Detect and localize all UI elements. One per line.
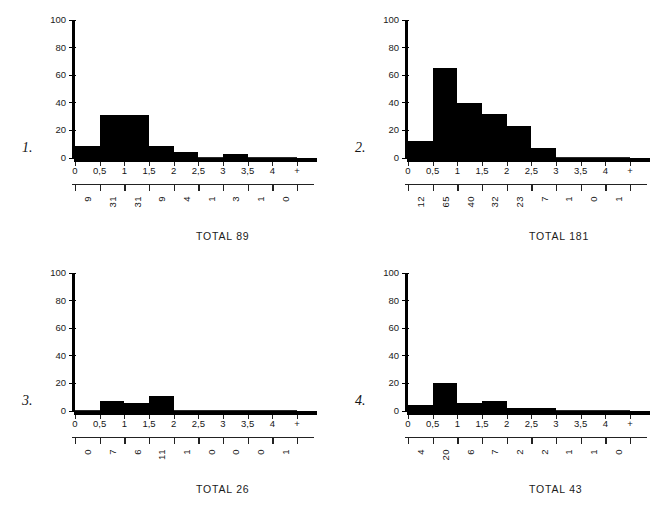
- plot-area-1: 020406080100: [72, 20, 317, 158]
- x-tick-label-1-4: 2: [171, 165, 176, 176]
- x-tick-label-4-5: 2,5: [525, 418, 538, 429]
- bin-count-2-8: 0: [588, 196, 599, 202]
- y-tick-label-2-80: 80: [373, 42, 399, 53]
- x-tick-label-1-2: 1: [122, 165, 127, 176]
- y-tick-label-4-40: 40: [373, 350, 399, 361]
- bin-count-tick-4-1: [433, 437, 434, 444]
- bars-group-1: [75, 20, 297, 158]
- bin-count-4-1: 4: [415, 449, 426, 455]
- bin-count-2-1: 12: [415, 196, 426, 208]
- bin-count-axis-3: 0761110001: [72, 437, 320, 483]
- bin-count-2-7: 1: [563, 196, 574, 202]
- x-tick-label-2-6: 3: [553, 165, 558, 176]
- plot-area-3: 020406080100: [72, 273, 317, 411]
- x-tick-label-4-6: 3: [553, 418, 558, 429]
- y-tick-label-3-0: 0: [40, 405, 66, 416]
- bin-count-tick-3-7: [248, 437, 249, 444]
- x-axis-labels-4: 00,511,522,533,54+: [405, 415, 653, 431]
- bin-count-tick-1-4: [174, 184, 175, 191]
- bin-count-1-5: 4: [181, 196, 192, 202]
- bin-count-1-7: 3: [230, 196, 241, 202]
- y-tick-label-1-100: 100: [40, 14, 66, 25]
- histogram-panel-4: 4.02040608010000,511,522,533,54+42067221…: [333, 253, 666, 505]
- x-tick-label-3-0: 0: [72, 418, 77, 429]
- y-tick-label-4-20: 20: [373, 377, 399, 388]
- bin-count-axis-2: 12654032237101: [405, 184, 653, 230]
- bin-count-3-7: 0: [230, 449, 241, 455]
- bin-count-4-4: 7: [489, 449, 500, 455]
- y-tick-label-2-20: 20: [373, 124, 399, 135]
- y-tick-label-3-80: 80: [40, 295, 66, 306]
- bin-count-tick-3-2: [124, 437, 125, 444]
- bar-1-1: [75, 146, 100, 158]
- bar-3-4: [149, 396, 174, 411]
- x-tick-label-1-6: 3: [220, 165, 225, 176]
- bin-count-tick-2-5: [531, 184, 532, 191]
- x-tick-label-3-3: 1,5: [142, 418, 155, 429]
- bin-count-3-6: 0: [206, 449, 217, 455]
- panel-index-label-1: 1.: [22, 140, 33, 156]
- y-tick-label-1-0: 0: [40, 152, 66, 163]
- x-axis-baseline-1: [74, 158, 317, 162]
- panel-index-label-3: 3.: [22, 393, 33, 409]
- bin-count-rule-1: [72, 184, 314, 185]
- x-tick-label-4-8: 4: [603, 418, 608, 429]
- bin-count-tick-2-4: [507, 184, 508, 191]
- x-tick-label-3-1: 0,5: [93, 418, 106, 429]
- bar-1-4: [149, 146, 174, 158]
- x-axis-baseline-3: [74, 411, 317, 415]
- bar-4-2: [433, 383, 458, 411]
- bin-count-1-6: 1: [206, 196, 217, 202]
- histogram-panel-grid: 1.02040608010000,511,522,533,54+93131941…: [0, 0, 666, 505]
- x-tick-label-2-2: 1: [455, 165, 460, 176]
- bin-count-2-6: 7: [539, 196, 550, 202]
- bin-count-tick-4-9: [630, 437, 631, 444]
- bar-2-3: [457, 103, 482, 158]
- bin-count-axis-1: 93131941310: [72, 184, 320, 230]
- bar-1-3: [124, 115, 149, 158]
- total-label-2: TOTAL 181: [529, 230, 589, 242]
- bin-count-tick-3-5: [198, 437, 199, 444]
- bar-4-4: [482, 401, 507, 411]
- bin-count-rule-2: [405, 184, 647, 185]
- bin-count-tick-2-1: [433, 184, 434, 191]
- bin-count-3-1: 0: [82, 449, 93, 455]
- y-tick-label-4-0: 0: [373, 405, 399, 416]
- bin-count-4-9: 0: [613, 449, 624, 455]
- bin-count-4-6: 2: [539, 449, 550, 455]
- bin-count-tick-4-2: [457, 437, 458, 444]
- bin-count-tick-2-9: [630, 184, 631, 191]
- bin-count-tick-1-9: [297, 184, 298, 191]
- x-tick-label-1-1: 0,5: [93, 165, 106, 176]
- x-tick-label-4-3: 1,5: [475, 418, 488, 429]
- bin-count-3-8: 0: [255, 449, 266, 455]
- bin-count-tick-1-3: [149, 184, 150, 191]
- y-tick-label-2-40: 40: [373, 97, 399, 108]
- histogram-panel-2: 2.02040608010000,511,522,533,54+12654032…: [333, 0, 666, 253]
- y-tick-label-4-80: 80: [373, 295, 399, 306]
- y-tick-label-4-100: 100: [373, 267, 399, 278]
- bin-count-1-2: 31: [107, 196, 118, 208]
- x-tick-label-3-2: 1: [122, 418, 127, 429]
- x-tick-label-4-0: 0: [405, 418, 410, 429]
- bars-group-2: [408, 20, 630, 158]
- y-tick-label-1-80: 80: [40, 42, 66, 53]
- bin-count-tick-1-2: [124, 184, 125, 191]
- x-axis-labels-2: 00,511,522,533,54+: [405, 162, 653, 178]
- bin-count-rule-4: [405, 437, 647, 438]
- bin-count-tick-2-3: [482, 184, 483, 191]
- bin-count-tick-2-7: [581, 184, 582, 191]
- x-tick-label-2-4: 2: [504, 165, 509, 176]
- total-label-3: TOTAL 26: [196, 483, 249, 495]
- x-tick-label-2-0: 0: [405, 165, 410, 176]
- bar-2-1: [408, 141, 433, 158]
- bin-count-tick-3-8: [272, 437, 273, 444]
- bin-count-tick-1-7: [248, 184, 249, 191]
- y-tick-label-4-60: 60: [373, 322, 399, 333]
- y-tick-label-2-60: 60: [373, 69, 399, 80]
- bin-count-tick-3-6: [223, 437, 224, 444]
- x-tick-label-3-6: 3: [220, 418, 225, 429]
- bin-count-3-9: 1: [280, 449, 291, 455]
- x-tick-label-2-9: +: [627, 165, 633, 176]
- x-tick-label-3-7: 3,5: [241, 418, 254, 429]
